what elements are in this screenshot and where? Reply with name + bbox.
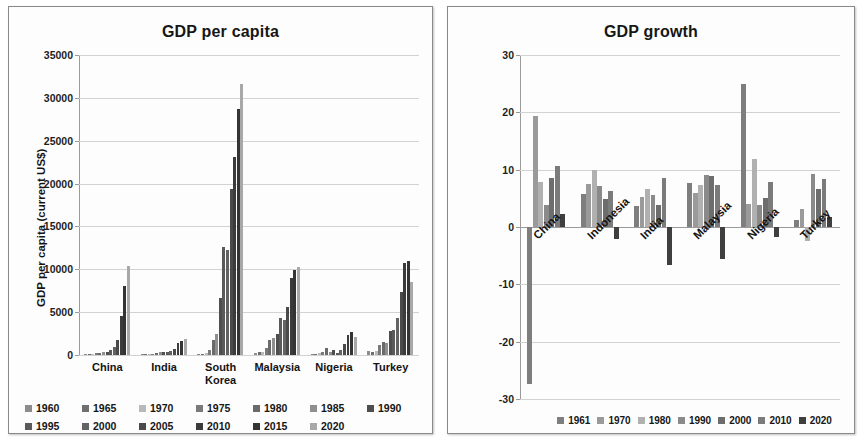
gridline [520,227,840,228]
bar [375,351,378,355]
legend-item[interactable]: 2010 [196,417,253,435]
legend-item[interactable]: 1985 [310,399,367,417]
left-y-axis-line [79,55,80,355]
bar [222,247,225,355]
legend-swatch-icon [758,417,765,424]
bar [184,339,187,355]
bar [261,352,264,355]
bar [240,84,243,355]
bar [321,352,324,355]
bar [581,194,586,227]
bar [311,354,314,355]
bar [113,347,116,355]
legend-item[interactable]: 1990 [678,415,711,426]
legend-label: 2020 [810,415,832,426]
gridline [79,355,419,356]
bar [162,352,165,355]
y-axis-tick-mark [75,312,79,313]
legend-item[interactable]: 1980 [638,415,671,426]
bar [159,352,162,355]
legend-swatch-icon [638,417,645,424]
legend-item[interactable]: 2010 [758,415,791,426]
y-axis-tick-label: 10 [502,164,514,176]
bar [226,250,229,355]
bar [95,353,98,355]
bar [123,286,126,355]
bar [265,348,268,355]
bar [693,193,698,227]
bar [290,278,293,355]
legend-swatch-icon [678,417,685,424]
bar [109,350,112,355]
legend-item[interactable]: 1990 [367,399,424,417]
legend-label: 1980 [264,402,287,414]
legend-swatch-icon [25,405,32,412]
bar [201,354,204,355]
legend-item[interactable]: 2020 [310,417,367,435]
gridline [520,112,840,113]
gridline [520,399,840,400]
legend-item[interactable]: 1980 [253,399,310,417]
y-axis-tick-label: -10 [499,278,514,290]
gridline [520,170,840,171]
bar [173,349,176,355]
bar [592,170,597,227]
legend-swatch-icon [799,417,806,424]
bar [120,316,123,355]
bar [98,353,101,355]
y-axis-tick-mark [75,55,79,56]
bar [634,206,639,227]
bar [586,184,591,227]
bar [407,261,410,355]
bar [367,351,370,355]
bar-group-india [141,55,187,355]
legend-swatch-icon [196,423,203,430]
y-axis-tick-label: 30 [502,49,514,61]
y-axis-tick-mark [75,98,79,99]
bar [268,340,271,355]
legend-label: 1995 [36,420,59,432]
bar [148,354,151,355]
bar [286,307,289,355]
legend-item[interactable]: 2000 [718,415,751,426]
bar [371,352,374,355]
legend-item[interactable]: 2020 [799,415,832,426]
x-axis-category-label: Malaysia [248,361,306,374]
legend-label: 2015 [264,420,287,432]
bar [667,227,672,265]
legend-swatch-icon [310,423,317,430]
legend-item[interactable]: 2015 [253,417,310,435]
bar [166,352,169,355]
legend-item[interactable]: 1961 [557,415,590,426]
legend-item[interactable]: 1995 [25,417,82,435]
legend-item[interactable]: 1965 [82,399,139,417]
bar [354,337,357,355]
right-chart-legend: 1961197019801990200020102020 [548,415,848,426]
legend-item[interactable]: 1960 [25,399,82,417]
bar [640,197,645,227]
bar [794,220,799,227]
bar [746,204,751,228]
legend-item[interactable]: 1970 [139,399,196,417]
x-axis-category-label: China [78,361,136,374]
legend-label: 1960 [36,402,59,414]
y-axis-tick-mark [516,55,520,56]
y-axis-tick-mark [75,355,79,356]
bar [180,341,183,355]
bar [560,214,565,227]
bar [155,353,158,355]
y-axis-tick-mark [516,342,520,343]
bar [212,340,215,355]
legend-item[interactable]: 2000 [82,417,139,435]
legend-item[interactable]: 1970 [597,415,630,426]
right-chart-title: GDP growth [448,23,854,41]
bar [237,109,240,355]
y-axis-tick-label: 5000 [50,306,73,318]
legend-item[interactable]: 1975 [196,399,253,417]
bar [88,354,91,355]
legend-item[interactable]: 2005 [139,417,196,435]
legend-label: 1965 [93,402,116,414]
bar [400,292,403,355]
bar [144,354,147,355]
bar-group-nigeria [311,55,357,355]
